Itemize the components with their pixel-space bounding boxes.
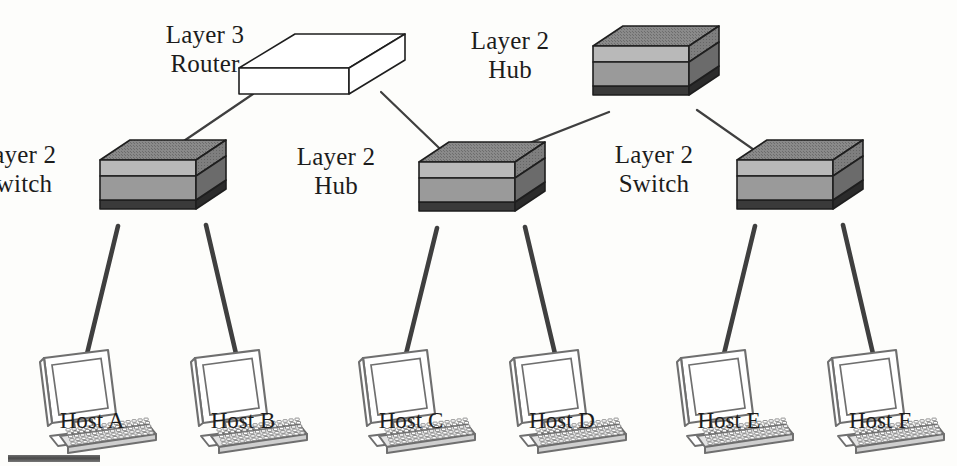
device-label-switch-left: Layer 2 Switch	[0, 140, 92, 198]
device-front-upper	[737, 160, 833, 176]
computer-host-b[interactable]	[181, 340, 311, 458]
device-base-front	[419, 202, 515, 211]
monitor-screen	[203, 359, 259, 416]
device-base-front	[100, 200, 196, 209]
computer-host-d[interactable]	[500, 340, 630, 458]
device-label-hub-top: Layer 2 Hub	[435, 26, 585, 84]
device-label-hub-middle: Layer 2 Hub	[261, 142, 411, 200]
device-switch-right[interactable]	[723, 146, 877, 248]
computer-host-a[interactable]	[30, 340, 160, 458]
host-label-host-d: Host D	[497, 408, 627, 434]
monitor-screen	[522, 359, 578, 416]
monitor-screen	[840, 359, 896, 416]
host-label-host-f: Host F	[815, 408, 945, 434]
diagram-canvas: Layer 3 RouterLayer 2 HubLayer 2 SwitchL…	[0, 0, 957, 466]
device-label-switch-right: Layer 2 Switch	[579, 140, 729, 198]
device-switch-left[interactable]	[86, 146, 240, 248]
device-base-front	[593, 86, 689, 95]
computer-host-c[interactable]	[349, 340, 479, 458]
device-front-lower	[593, 62, 689, 86]
device-label-router: Layer 3 Router	[130, 20, 280, 78]
device-front-upper	[100, 160, 196, 176]
device-front-upper	[593, 46, 689, 62]
monitor-screen	[689, 359, 745, 416]
device-front-lower	[737, 176, 833, 200]
monitor-screen	[371, 359, 427, 416]
device-front-lower	[419, 178, 515, 202]
monitor-screen	[52, 359, 108, 416]
host-label-host-c: Host C	[346, 408, 476, 434]
host-label-host-a: Host A	[27, 408, 157, 434]
device-hub-top[interactable]	[579, 32, 733, 134]
device-base-front	[737, 200, 833, 209]
device-front-upper	[419, 162, 515, 178]
host-label-host-e: Host E	[664, 408, 794, 434]
device-front-lower	[100, 176, 196, 200]
host-label-host-b: Host B	[178, 408, 308, 434]
device-hub-middle[interactable]	[405, 148, 559, 250]
computer-host-f[interactable]	[818, 340, 948, 458]
computer-host-e[interactable]	[667, 340, 797, 458]
scan-artifact-bar	[8, 455, 100, 462]
